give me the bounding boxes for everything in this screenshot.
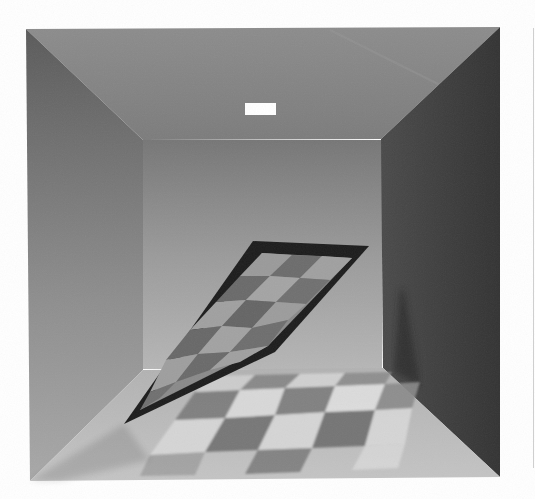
page-edge-line — [533, 28, 534, 468]
render-grain-overlay — [26, 27, 500, 481]
rendered-room-scene — [0, 0, 535, 499]
